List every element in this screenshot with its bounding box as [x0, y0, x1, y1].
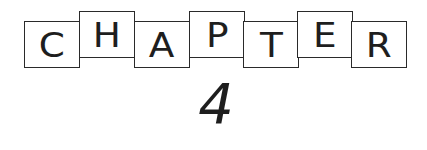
chapter-number: 4	[190, 74, 242, 134]
letter-box-e: E	[297, 11, 353, 58]
letter: H	[93, 18, 121, 52]
letter-box-r: R	[351, 21, 407, 68]
letter: E	[313, 18, 337, 52]
letter-box-h: H	[79, 11, 135, 58]
letter: T	[260, 28, 283, 62]
letter: P	[206, 18, 229, 52]
letter-box-a: A	[134, 21, 190, 68]
letter: C	[39, 28, 65, 62]
letter-box-p: P	[189, 11, 245, 58]
letter-box-c: C	[24, 21, 80, 68]
letter: A	[149, 28, 175, 62]
letter: R	[366, 28, 392, 62]
letter-box-t: T	[243, 21, 299, 68]
